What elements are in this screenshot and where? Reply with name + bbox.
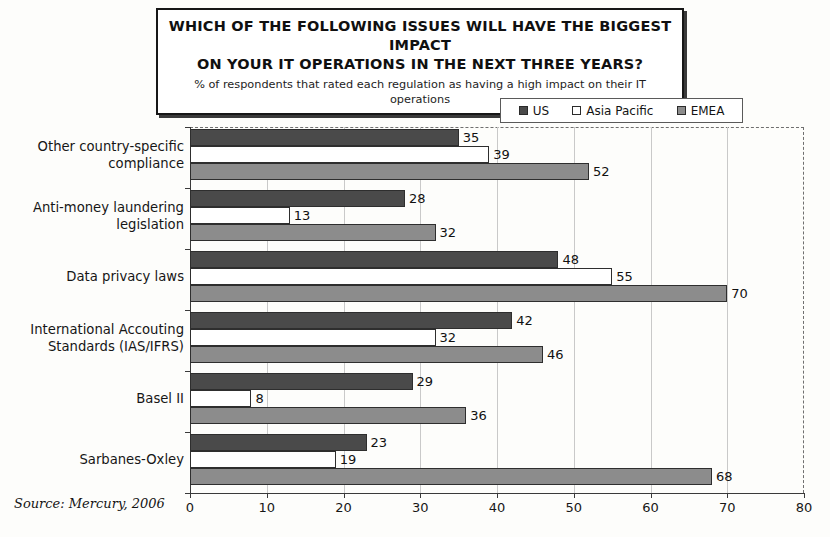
chart-title-line-2: ON YOUR IT OPERATIONS IN THE NEXT THREE … [168,55,672,74]
bar-value-label: 28 [409,190,426,207]
gridline [727,127,728,493]
x-axis-tick [651,493,652,498]
category-label-line: Standards (IAS/IFRS) [4,339,184,356]
legend-swatch-icon [677,106,686,115]
category-label-line: Data privacy laws [4,269,184,286]
category-label-line: Anti-money laundering [4,200,184,217]
bar-value-label: 42 [516,312,533,329]
category-label: Other country-specificcompliance [4,139,184,172]
category-label-line: International Accouting [4,322,184,339]
bar-value-label: 32 [440,224,457,241]
bar-asia-pacific[interactable] [190,207,290,224]
legend-label: US [533,104,549,118]
legend-item-emea[interactable]: EMEA [677,104,725,118]
bar-emea[interactable] [190,407,466,424]
y-axis-tick [185,188,191,189]
x-axis-tick [727,493,728,498]
gridline [574,127,575,493]
bar-emea[interactable] [190,224,436,241]
bar-value-label: 35 [463,129,480,146]
bar-value-label: 46 [547,346,564,363]
category-label-line: Other country-specific [4,139,184,156]
x-axis-tick [344,493,345,498]
category-label-line: compliance [4,156,184,173]
bar-value-label: 19 [340,451,357,468]
x-axis-tick-label: 50 [565,500,582,515]
category-label: Basel II [4,391,184,408]
bar-us[interactable] [190,434,367,451]
gridline [420,127,421,493]
bar-value-label: 29 [417,373,434,390]
bar-value-label: 48 [562,251,579,268]
bar-asia-pacific[interactable] [190,146,489,163]
bar-value-label: 36 [470,407,487,424]
y-axis-tick [185,432,191,433]
bar-asia-pacific[interactable] [190,451,336,468]
bar-asia-pacific[interactable] [190,329,436,346]
category-label: Data privacy laws [4,269,184,286]
legend-item-asia-pacific[interactable]: Asia Pacific [572,104,653,118]
category-label: Sarbanes-Oxley [4,452,184,469]
gridline [497,127,498,493]
y-axis-tick [185,493,191,494]
bar-value-label: 32 [440,329,457,346]
bar-us[interactable] [190,373,413,390]
y-axis-tick [185,371,191,372]
legend-swatch-icon [519,106,528,115]
bar-us[interactable] [190,312,512,329]
gridline [651,127,652,493]
bar-value-label: 70 [731,285,748,302]
legend-label: Asia Pacific [586,104,653,118]
chart-legend: USAsia PacificEMEA [500,98,743,123]
bar-value-label: 8 [255,390,263,407]
y-axis-category-labels: Other country-specificcomplianceAnti-mon… [0,0,184,537]
bar-emea[interactable] [190,285,727,302]
bar-us[interactable] [190,251,558,268]
x-axis-tick [420,493,421,498]
bar-value-label: 13 [294,207,311,224]
bar-value-label: 52 [593,163,610,180]
category-label-line: legislation [4,217,184,234]
bar-value-label: 68 [716,468,733,485]
x-axis-tick-label: 80 [796,500,813,515]
category-label-line: Basel II [4,391,184,408]
x-axis-tick [804,493,805,498]
bar-emea[interactable] [190,346,543,363]
bar-value-label: 39 [493,146,510,163]
bar-us[interactable] [190,129,459,146]
bar-asia-pacific[interactable] [190,268,612,285]
bar-us[interactable] [190,190,405,207]
x-axis-tick [574,493,575,498]
x-axis-tick-label: 0 [186,500,194,515]
legend-swatch-icon [572,106,581,115]
legend-label: EMEA [691,104,725,118]
bar-asia-pacific[interactable] [190,390,251,407]
x-axis-tick-label: 30 [412,500,429,515]
x-axis-tick [497,493,498,498]
y-axis-tick [185,249,191,250]
y-axis-tick [185,310,191,311]
category-label-line: Sarbanes-Oxley [4,452,184,469]
y-axis-tick [185,127,191,128]
bar-value-label: 23 [371,434,388,451]
legend-item-us[interactable]: US [519,104,549,118]
category-label: Anti-money launderinglegislation [4,200,184,233]
bar-emea[interactable] [190,163,589,180]
x-axis-tick-label: 10 [258,500,275,515]
category-label: International AccoutingStandards (IAS/IF… [4,322,184,355]
chart-title-line-1: WHICH OF THE FOLLOWING ISSUES WILL HAVE … [168,17,672,55]
bar-value-label: 55 [616,268,633,285]
bar-emea[interactable] [190,468,712,485]
x-axis-tick [267,493,268,498]
x-axis-tick-label: 70 [719,500,736,515]
x-axis-tick-label: 60 [642,500,659,515]
source-note: Source: Mercury, 2006 [14,496,165,511]
x-axis-tick-label: 20 [335,500,352,515]
x-axis-tick-label: 40 [489,500,506,515]
